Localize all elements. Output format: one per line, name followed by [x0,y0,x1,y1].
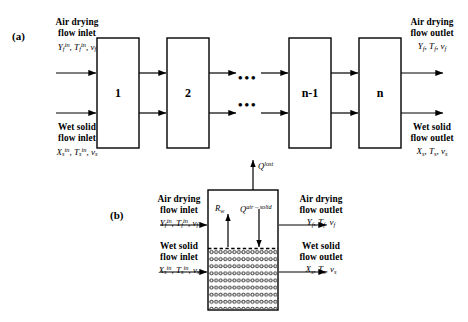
stage-box-1-label: 1 [97,86,139,101]
panel-b-air-inlet-title-line1: Air drying [140,194,218,204]
panel-b-air-outlet-title-line2: flow outlet [279,205,363,215]
panel-a-air-inlet-vars: Yfin, Tfin, vf [34,41,120,52]
panel-a-air-outlet-vars: Yf, Tf, vf [396,41,468,52]
panel-a-solid-inlet-vars: Xsin, Tsin, vs [34,146,120,157]
panel-a-tag: (a) [12,30,25,42]
panel-b-solid-outlet-title-line2: flow outlet [279,252,363,262]
figure-canvas: (a) Air drying flow inlet Yfin, Tfin, vf… [0,0,468,322]
panel-a-stage-boxes [97,38,401,148]
panel-b-solid-outlet-title-line1: Wet solid [279,241,363,251]
panel-b-solid-inlet-vars: Xsin, Tsin, vs [140,264,218,275]
panel-b-air-outlet-vars: Yf, Tf, vf [279,217,363,228]
panel-a-air-inlet-title-line1: Air drying [34,17,120,27]
ellipsis-solid-row: ••• [238,97,258,113]
panel-b-solid-inlet-title-line1: Wet solid [140,241,218,251]
panel-a-air-outlet-title-line2: flow outlet [396,28,468,38]
panel-a-solid-outlet-title-line1: Wet solid [396,122,468,132]
panel-b-air-inlet-title-line2: flow inlet [140,205,218,215]
panel-a-air-outlet-title-line1: Air drying [396,17,468,27]
stage-box-n-minus-1-label: n-1 [289,86,331,101]
panel-b-vessel [160,160,326,310]
panel-b-air-inlet-vars: Yfin, Tfin, vf [140,217,218,228]
panel-b-tag: (b) [110,209,123,221]
flux-r-w-label: Rw [215,203,224,214]
panel-b-solid-inlet-title-line2: flow inlet [140,252,218,262]
panel-b-air-outlet-title-line1: Air drying [279,194,363,204]
panel-a-air-inlet-title-line2: flow inlet [34,28,120,38]
flux-q-lost-label: Qlost [258,160,273,171]
panel-a-solid-inlet-title-line1: Wet solid [34,122,120,132]
panel-a-solid-outlet-vars: Xs, Ts, vs [396,146,468,157]
stage-box-2-label: 2 [167,86,209,101]
panel-b-solid-outlet-vars: Xs, Ts, vs [279,264,363,275]
ellipsis-air-row: ••• [238,70,258,86]
panel-a-solid-inlet-title-line2: flow inlet [34,133,120,143]
flux-q-air-to-solid-label: Qair→solid [240,203,272,214]
stage-box-n-label: n [359,86,401,101]
panel-a-solid-outlet-title-line2: flow outlet [396,133,468,143]
particle-bed [209,249,277,309]
